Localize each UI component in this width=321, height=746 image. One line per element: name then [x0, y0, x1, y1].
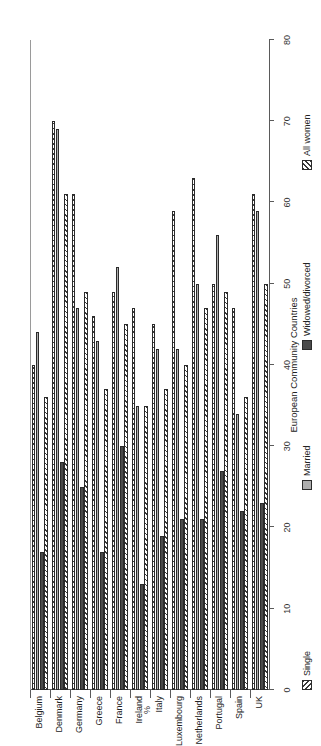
value-axis-title: % — [142, 706, 152, 714]
bar-married-greece — [96, 341, 100, 690]
category-label-netherlands: Netherlands — [194, 696, 204, 745]
bar-allwomen-ireland — [144, 406, 148, 690]
category-separator — [150, 690, 151, 698]
legend-swatch-widowed — [302, 340, 312, 350]
bar-allwomen-italy — [164, 389, 168, 690]
category-separator — [130, 690, 131, 698]
legend-item-widowed: Widowed/divorced — [302, 262, 312, 350]
category-label-belgium: Belgium — [34, 696, 44, 729]
bar-widowed-belgium — [40, 552, 44, 690]
bar-allwomen-denmark — [64, 194, 68, 690]
category-separator — [250, 690, 251, 698]
bar-single-netherlands — [192, 178, 196, 690]
category-label-denmark: Denmark — [54, 696, 64, 733]
legend-swatch-married — [302, 480, 312, 490]
value-tick — [269, 608, 274, 609]
bar-widowed-greece — [100, 552, 104, 690]
category-separator — [210, 690, 211, 698]
value-axis-line — [269, 40, 270, 690]
category-label-uk: UK — [254, 696, 264, 709]
bar-widowed-netherlands — [200, 519, 204, 690]
bar-married-luxembourg — [176, 349, 180, 690]
bar-single-greece — [92, 316, 96, 690]
bar-single-luxembourg — [172, 211, 176, 690]
category-separator — [190, 690, 191, 698]
bar-single-belgium — [32, 365, 36, 690]
value-tick — [269, 39, 274, 40]
category-separator — [230, 690, 231, 698]
legend-label-widowed: Widowed/divorced — [302, 262, 312, 336]
bar-allwomen-uk — [264, 284, 268, 690]
legend-swatch-single — [302, 680, 312, 690]
bar-single-uk — [252, 194, 256, 690]
category-label-spain: Spain — [234, 696, 244, 719]
bar-single-spain — [232, 308, 236, 690]
value-tick — [269, 689, 274, 690]
category-label-luxembourg: Luxembourg — [174, 696, 184, 746]
bar-widowed-portugal — [220, 471, 224, 690]
bar-allwomen-belgium — [44, 398, 48, 691]
bar-married-germany — [76, 308, 80, 690]
value-tick — [269, 527, 274, 528]
bar-widowed-france — [120, 446, 124, 690]
bar-allwomen-greece — [104, 389, 108, 690]
bar-married-portugal — [216, 235, 220, 690]
category-separator — [170, 690, 171, 698]
bar-widowed-italy — [160, 536, 164, 690]
legend-label-allwomen: All women — [302, 114, 312, 156]
bar-married-france — [116, 268, 120, 691]
bar-single-france — [112, 292, 116, 690]
value-tick — [269, 202, 274, 203]
value-tick — [269, 283, 274, 284]
legend-item-single: Single — [302, 651, 312, 690]
bar-widowed-luxembourg — [180, 519, 184, 690]
category-separator — [70, 690, 71, 698]
bar-allwomen-portugal — [224, 292, 228, 690]
bar-married-netherlands — [196, 284, 200, 690]
bar-married-spain — [236, 414, 240, 690]
bar-single-germany — [72, 194, 76, 690]
category-label-portugal: Portugal — [214, 696, 224, 730]
bar-married-belgium — [36, 333, 40, 691]
chart-legend: SingleMarriedWidowed/divorcedAll women — [302, 40, 320, 690]
category-label-greece: Greece — [94, 696, 104, 726]
bar-widowed-ireland — [140, 584, 144, 690]
bar-single-denmark — [52, 121, 56, 690]
bar-allwomen-france — [124, 324, 128, 690]
legend-item-allwomen: All women — [302, 114, 312, 170]
value-tick — [269, 445, 274, 446]
bar-allwomen-luxembourg — [184, 365, 188, 690]
value-tick — [269, 120, 274, 121]
bar-allwomen-germany — [84, 292, 88, 690]
bar-single-ireland — [132, 308, 136, 690]
legend-label-married: Married — [302, 445, 312, 476]
bar-widowed-denmark — [60, 463, 64, 691]
bar-married-italy — [156, 349, 160, 690]
bar-widowed-germany — [80, 487, 84, 690]
bar-widowed-spain — [240, 511, 244, 690]
category-separator — [90, 690, 91, 698]
bar-married-denmark — [56, 129, 60, 690]
value-tick — [269, 364, 274, 365]
bar-widowed-uk — [260, 503, 264, 690]
bar-married-ireland — [136, 406, 140, 690]
legend-item-married: Married — [302, 445, 312, 490]
bar-single-italy — [152, 324, 156, 690]
bar-single-portugal — [212, 284, 216, 690]
category-label-italy: Italy — [154, 696, 164, 713]
category-separator — [110, 690, 111, 698]
plot-area: 80706050403020100 BelgiumDenmarkGermanyG… — [30, 40, 270, 690]
bar-married-uk — [256, 211, 260, 690]
legend-swatch-allwomen — [302, 160, 312, 170]
category-axis-title: European Community Countries — [288, 40, 299, 690]
bar-allwomen-netherlands — [204, 308, 208, 690]
category-label-germany: Germany — [74, 696, 84, 733]
bar-allwomen-spain — [244, 398, 248, 691]
legend-label-single: Single — [302, 651, 312, 676]
category-separator — [50, 690, 51, 698]
category-label-france: France — [114, 696, 124, 724]
category-separator — [30, 690, 31, 698]
